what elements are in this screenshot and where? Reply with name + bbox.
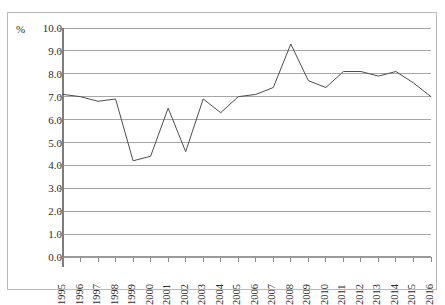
- x-axis-tick-label: 2014: [389, 284, 400, 305]
- x-axis-tick-label: 2000: [144, 284, 155, 305]
- series-polyline: [63, 44, 431, 161]
- x-axis-tick-label: 2011: [336, 284, 347, 305]
- y-axis-tick-labels: 10.09.08.07.06.05.04.03.02.01.00.0: [20, 13, 62, 289]
- x-axis-tick-label: 2008: [284, 284, 295, 305]
- x-axis-tick-labels: 1995199619971998199920002001200220032004…: [63, 259, 431, 305]
- x-axis-tick-label: 2013: [371, 284, 382, 305]
- y-axis-tick-label: 7.0: [28, 91, 62, 103]
- plot-area: [63, 28, 431, 257]
- x-axis-tick-label: 2010: [319, 284, 330, 305]
- x-axis-tick-label: 2009: [301, 284, 312, 305]
- y-axis-tick-label: 9.0: [28, 45, 62, 57]
- y-axis-tick-label: 10.0: [28, 22, 62, 34]
- x-axis-tick-label: 1999: [126, 284, 137, 305]
- x-axis-tick-label: 2015: [406, 284, 417, 305]
- x-axis-tick-label: 2004: [214, 284, 225, 305]
- x-axis-tick-label: 2016: [424, 284, 435, 305]
- data-series-line: [63, 28, 431, 257]
- x-axis-tick-label: 2001: [161, 284, 172, 305]
- y-axis-tick-label: 4.0: [28, 159, 62, 171]
- x-axis-tick-label: 2006: [249, 284, 260, 305]
- chart-figure: % 10.09.08.07.06.05.04.03.02.01.00.0 199…: [7, 12, 437, 290]
- y-axis-tick-label: 1.0: [28, 228, 62, 240]
- x-axis-tick-label: 1995: [56, 284, 67, 305]
- y-axis-tick-label: 6.0: [28, 114, 62, 126]
- x-axis-tick-label: 1998: [109, 284, 120, 305]
- x-axis-tick-label: 2003: [196, 284, 207, 305]
- y-axis-tick-label: 0.0: [28, 251, 62, 263]
- x-axis-tick-label: 1997: [91, 284, 102, 305]
- y-axis-tick-label: 8.0: [28, 68, 62, 80]
- x-axis-tick-label: 2007: [266, 284, 277, 305]
- y-axis-tick-label: 5.0: [28, 137, 62, 149]
- x-axis-tick-label: 1996: [74, 284, 85, 305]
- y-axis-tick-label: 3.0: [28, 182, 62, 194]
- y-axis-tick-label: 2.0: [28, 205, 62, 217]
- x-axis-tick-label: 2002: [179, 284, 190, 305]
- x-axis-tick-label: 2005: [231, 284, 242, 305]
- x-axis-tick-label: 2012: [354, 284, 365, 305]
